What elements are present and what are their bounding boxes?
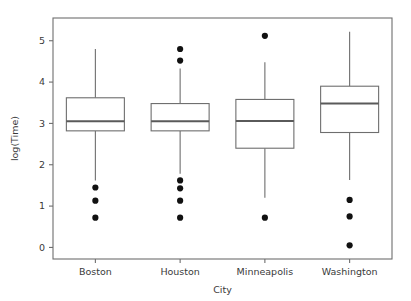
y-axis-title: log(Time)	[9, 116, 20, 161]
outlier-point	[177, 185, 183, 191]
outlier-point	[177, 46, 183, 52]
x-tick-label: Washington	[322, 266, 378, 277]
outlier-point	[177, 215, 183, 221]
outlier-point	[177, 177, 183, 183]
y-tick-label: 1	[39, 200, 45, 211]
y-tick-label: 5	[39, 35, 45, 46]
outlier-point	[177, 57, 183, 63]
x-tick-label: Houston	[160, 266, 199, 277]
outlier-point	[92, 184, 98, 190]
outlier-point	[347, 213, 353, 219]
outlier-point	[347, 242, 353, 248]
outlier-point	[92, 198, 98, 204]
outlier-point	[347, 197, 353, 203]
outlier-point	[262, 215, 268, 221]
y-tick-label: 3	[39, 118, 45, 129]
box-iqr	[66, 98, 124, 131]
box-iqr	[321, 86, 379, 132]
outlier-point	[92, 215, 98, 221]
boxplot-figure: 012345 BostonHoustonMinneapolisWashingto…	[0, 0, 411, 301]
x-tick-label: Minneapolis	[237, 266, 294, 277]
x-axis-title: City	[213, 284, 232, 295]
y-tick-label: 4	[39, 76, 45, 87]
box-iqr	[151, 104, 209, 131]
box-iqr	[236, 99, 294, 148]
y-tick-label: 0	[39, 242, 45, 253]
outlier-point	[262, 33, 268, 39]
y-tick-label: 2	[39, 159, 45, 170]
boxplot-svg: 012345 BostonHoustonMinneapolisWashingto…	[0, 0, 411, 301]
x-tick-label: Boston	[79, 266, 112, 277]
outlier-point	[177, 198, 183, 204]
